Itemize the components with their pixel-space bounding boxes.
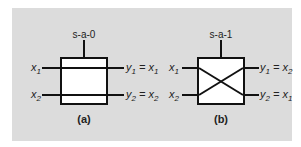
input-x1-b: x1 [168,61,179,76]
input-x1-a: x1 [30,61,41,76]
input-x2-b: x2 [168,88,180,103]
switch-box-a [61,58,107,104]
caption-b: (b) [214,113,228,125]
output-y2-b: y2 = x1 [259,88,292,103]
input-x2-a: x2 [30,88,42,103]
output-y1-a: y1 = x1 [125,61,158,76]
caption-a: (a) [77,113,91,125]
fault-label-a: s-a-0 [73,29,96,40]
output-y1-b: y1 = x2 [259,61,293,76]
output-y2-a: y2 = x2 [125,88,159,103]
switch-fault-diagram: s-a-0 x1 x2 y1 = x1 y2 = x2 (a) s-a-1 x1… [0,0,301,147]
diagram-a: s-a-0 x1 x2 y1 = x1 y2 = x2 (a) [30,29,159,125]
diagram-b: s-a-1 x1 x2 y1 = x2 y2 = x1 (b) [168,29,293,125]
fault-label-b: s-a-1 [210,29,233,40]
